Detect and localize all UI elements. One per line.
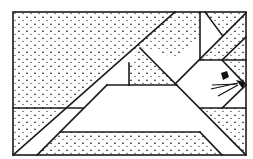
mouse-puzzle-diagram (0, 0, 253, 159)
